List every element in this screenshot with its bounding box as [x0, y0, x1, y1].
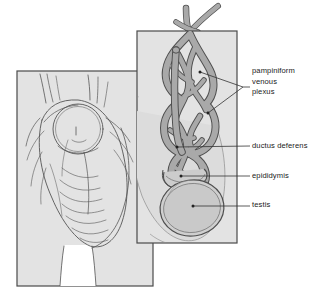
label-epididymis: epididymis — [252, 171, 289, 182]
dot-ductus-deferens — [176, 146, 179, 149]
dot-pampiniform-upper — [199, 71, 202, 74]
suprapanel-vessels — [176, 6, 218, 34]
label-line: plexus — [252, 87, 295, 98]
dot-pampiniform-lower — [207, 112, 210, 115]
dot-epididymis — [180, 175, 183, 178]
left-panel-group — [17, 71, 153, 286]
label-line: venous — [252, 77, 295, 88]
label-ductus-deferens: ductus deferens — [252, 141, 308, 152]
dot-testis — [192, 205, 195, 208]
label-line: pampiniform — [252, 66, 295, 77]
anatomy-illustration — [0, 0, 325, 306]
anatomy-figure: pampiniform venous plexus ductus deferen… — [0, 0, 325, 306]
label-pampiniform-venous-plexus: pampiniform venous plexus — [252, 66, 295, 98]
label-testis: testis — [252, 200, 270, 211]
right-panel-group — [130, 31, 237, 246]
